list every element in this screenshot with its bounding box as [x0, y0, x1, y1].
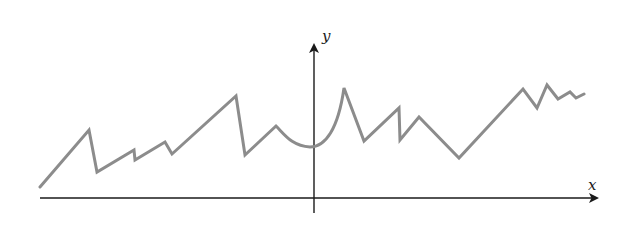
function-graph-figure: x y [0, 0, 624, 232]
x-axis-label: x [588, 176, 597, 194]
y-axis-label: y [321, 27, 331, 45]
jagged-function-curve [40, 85, 584, 187]
